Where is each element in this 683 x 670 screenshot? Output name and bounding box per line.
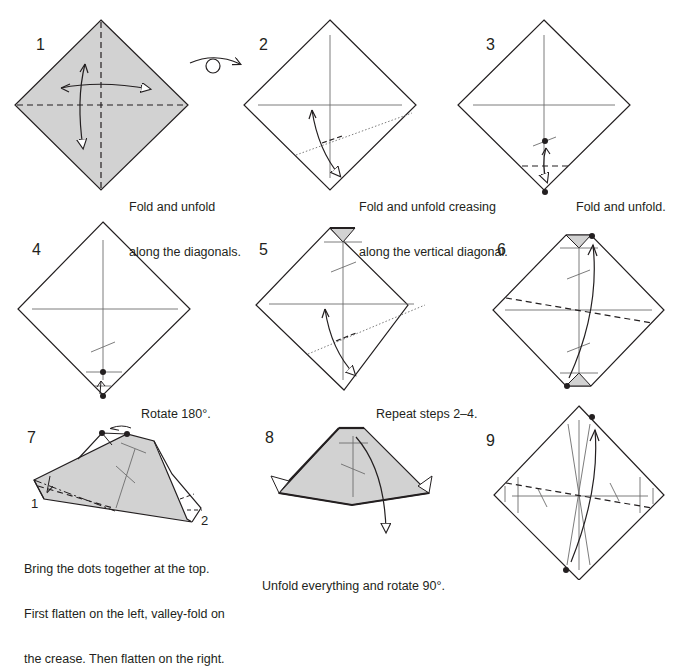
step-3-caption: Fold and unfold. (576, 170, 666, 245)
step-2-caption: Fold and unfold creasing along the verti… (359, 170, 508, 290)
step-2-figure (244, 20, 416, 190)
step-3-number: 3 (486, 37, 495, 53)
step-9-figure (494, 406, 664, 580)
step-5-number: 5 (259, 242, 268, 258)
step-7-caption: Bring the dots together at the top. Firs… (24, 532, 225, 670)
caption-line: along the diagonals. (129, 245, 241, 260)
step-2-number: 2 (259, 37, 268, 53)
step-4-number: 4 (32, 242, 41, 258)
caption-line: Fold and unfold. (576, 200, 666, 215)
caption-line: along the vertical diagonal. (359, 245, 508, 260)
caption-line: First flatten on the left, valley-fold o… (24, 607, 225, 622)
step-4-caption: Rotate 180°. (141, 377, 211, 452)
step-8-number: 8 (265, 430, 274, 446)
turn-over-icon (190, 58, 240, 73)
step-7-point-label-1: 1 (31, 497, 38, 510)
step-1-number: 1 (36, 37, 45, 53)
step-3-figure (458, 20, 630, 195)
caption-line: Fold and unfold (129, 200, 241, 215)
step-8-caption: Unfold everything and rotate 90°. (262, 549, 445, 624)
caption-line: the crease. Then flatten on the right. (24, 652, 225, 667)
caption-line: Bring the dots together at the top. (24, 562, 225, 577)
caption-line: Fold and unfold creasing (359, 200, 508, 215)
step-1-caption: Fold and unfold along the diagonals. (129, 170, 241, 290)
step-6-figure (493, 233, 664, 389)
step-7-number: 7 (27, 430, 36, 446)
step-9-number: 9 (486, 433, 495, 449)
caption-line: Rotate 180°. (141, 407, 211, 422)
caption-line: Unfold everything and rotate 90°. (262, 579, 445, 594)
caption-line: Repeat steps 2–4. (376, 407, 477, 422)
step-7-point-label-2: 2 (201, 514, 208, 527)
step-5-caption: Repeat steps 2–4. (376, 377, 477, 452)
